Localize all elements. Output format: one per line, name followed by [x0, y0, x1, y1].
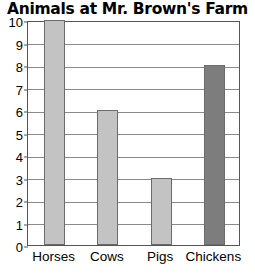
y-axis-tick-mark [24, 22, 28, 23]
y-axis-tick-mark [24, 224, 28, 225]
bar-chickens [204, 65, 225, 245]
x-axis-label-horses: Horses [32, 249, 75, 265]
y-axis-tick-label: 5 [16, 128, 23, 141]
y-axis-tick-label: 1 [16, 218, 23, 231]
y-axis-tick-mark [24, 247, 28, 248]
y-axis-tick-label: 0 [16, 241, 23, 254]
y-axis-tick-mark [24, 157, 28, 158]
y-axis-tick-label: 2 [16, 196, 23, 209]
chart-title: Animals at Mr. Brown's Farm [0, 0, 255, 18]
y-axis-tick-mark [24, 179, 28, 180]
y-axis-tick-label: 8 [16, 61, 23, 74]
bar-horses [44, 20, 65, 245]
y-axis-tick-label: 4 [16, 151, 23, 164]
y-axis-tick-label: 10 [9, 16, 23, 29]
y-axis-tick-label: 3 [16, 173, 23, 186]
y-axis-tick-mark [24, 112, 28, 113]
y-axis-tick-mark [24, 202, 28, 203]
plot-area: 012345678910 [27, 21, 240, 246]
y-axis-tick-label: 6 [16, 106, 23, 119]
y-axis-tick-mark [24, 134, 28, 135]
y-axis-tick-mark [24, 44, 28, 45]
y-axis-tick-mark [24, 89, 28, 90]
bar-pigs [151, 178, 172, 246]
y-axis-tick-label: 7 [16, 83, 23, 96]
bar-chart-figure: Animals at Mr. Brown's Farm 012345678910… [0, 0, 255, 274]
x-axis-label-chickens: Chickens [186, 249, 242, 265]
y-axis-tick-label: 9 [16, 38, 23, 51]
bar-cows [97, 110, 118, 245]
x-axis-label-pigs: Pigs [147, 249, 173, 265]
y-axis-tick-mark [24, 67, 28, 68]
x-axis-label-cows: Cows [90, 249, 124, 265]
x-axis-labels: HorsesCowsPigsChickens [27, 249, 240, 271]
